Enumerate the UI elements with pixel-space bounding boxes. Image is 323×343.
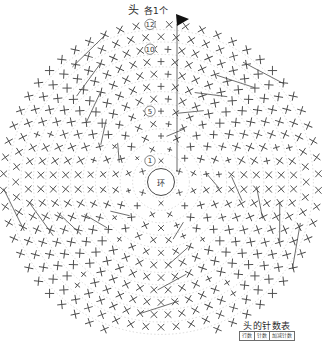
- single-crochet-symbol: [234, 86, 242, 94]
- single-crochet-symbol: [232, 213, 240, 221]
- single-crochet-symbol: [77, 200, 84, 207]
- single-crochet-symbol: [251, 157, 258, 164]
- single-crochet-symbol: [261, 238, 269, 246]
- single-crochet-symbol: [265, 81, 273, 89]
- single-crochet-symbol: [29, 144, 36, 151]
- single-crochet-symbol: [64, 157, 71, 164]
- single-crochet-symbol: [127, 320, 134, 327]
- single-crochet-symbol: [116, 121, 123, 128]
- single-crochet-symbol: [225, 130, 233, 138]
- single-crochet-symbol: [167, 212, 172, 217]
- single-crochet-symbol: [116, 92, 124, 100]
- single-crochet-symbol: [260, 94, 268, 102]
- single-crochet-symbol: [109, 81, 117, 89]
- single-crochet-symbol: [289, 158, 296, 165]
- single-crochet-symbol: [150, 237, 156, 243]
- single-crochet-symbol: [101, 325, 109, 333]
- single-crochet-symbol: [210, 226, 217, 233]
- increase-symbol: [166, 121, 172, 127]
- single-crochet-symbol: [254, 226, 262, 234]
- single-crochet-symbol: [260, 261, 268, 269]
- single-crochet-symbol: [58, 55, 66, 63]
- single-crochet-symbol: [25, 92, 33, 100]
- single-crochet-symbol: [71, 60, 79, 68]
- crochet-diagram: 环 151012: [0, 0, 323, 343]
- single-crochet-symbol: [172, 84, 179, 91]
- single-crochet-symbol: [34, 277, 42, 285]
- single-crochet-symbol: [104, 201, 111, 208]
- single-crochet-symbol: [112, 316, 120, 324]
- single-crochet-symbol: [188, 320, 195, 327]
- single-crochet-symbol: [295, 133, 303, 141]
- chain-connector: [178, 111, 204, 114]
- single-crochet-symbol: [240, 226, 248, 234]
- single-crochet-symbol: [193, 225, 200, 232]
- single-crochet-symbol: [192, 103, 200, 111]
- single-crochet-symbol: [151, 287, 157, 293]
- single-crochet-symbol: [53, 238, 61, 246]
- single-crochet-symbol: [216, 119, 224, 127]
- single-crochet-symbol: [19, 223, 27, 231]
- single-crochet-symbol: [185, 61, 192, 68]
- single-crochet-symbol: [251, 84, 259, 92]
- single-crochet-symbol: [136, 73, 143, 80]
- single-crochet-symbol: [211, 257, 219, 265]
- single-crochet-symbol: [199, 121, 206, 128]
- single-crochet-symbol: [198, 291, 206, 299]
- single-crochet-symbol: [217, 88, 225, 96]
- single-crochet-symbol: [123, 307, 130, 314]
- single-crochet-symbol: [50, 186, 56, 192]
- single-crochet-symbol: [204, 143, 211, 150]
- single-crochet-symbol: [150, 147, 155, 152]
- single-crochet-symbol: [210, 131, 217, 138]
- single-crochet-symbol: [67, 118, 75, 126]
- single-crochet-symbol: [142, 222, 149, 229]
- single-crochet-symbol: [290, 186, 296, 192]
- single-crochet-symbol: [62, 186, 68, 192]
- single-crochet-symbol: [63, 272, 71, 280]
- increase-symbol: [126, 188, 131, 193]
- single-crochet-symbol: [101, 31, 109, 39]
- single-crochet-symbol: [55, 143, 63, 151]
- single-crochet-symbol: [283, 105, 291, 113]
- single-crochet-symbol: [202, 40, 210, 48]
- single-crochet-symbol: [10, 122, 18, 130]
- single-crochet-symbol: [98, 237, 106, 245]
- single-crochet-symbol: [49, 81, 57, 89]
- single-crochet-symbol: [103, 99, 111, 107]
- single-crochet-symbol: [268, 289, 276, 297]
- single-crochet-symbol: [273, 213, 280, 220]
- increase-symbol: [273, 144, 280, 151]
- increase-symbol: [165, 46, 171, 52]
- single-crochet-symbol: [242, 60, 250, 68]
- single-crochet-symbol: [91, 278, 99, 286]
- single-crochet-symbol: [86, 97, 94, 105]
- single-crochet-symbol: [24, 237, 32, 245]
- single-crochet-symbol: [143, 84, 150, 91]
- single-crochet-symbol: [39, 238, 47, 246]
- increase-symbol: [165, 96, 172, 103]
- single-crochet-symbol: [109, 246, 117, 254]
- increase-symbol: [205, 275, 213, 283]
- round-marker-label: 10: [146, 46, 155, 54]
- single-crochet-symbol: [71, 295, 79, 303]
- single-crochet-symbol: [304, 235, 312, 243]
- single-crochet-symbol: [188, 36, 195, 43]
- chain-connector: [217, 75, 255, 87]
- table-header-row: 行数针数加减针数: [240, 332, 295, 341]
- chain-connector: [30, 203, 53, 235]
- increase-symbol: [229, 289, 237, 297]
- single-crochet-symbol: [140, 190, 146, 196]
- single-crochet-symbol: [74, 130, 82, 138]
- single-crochet-symbol: [187, 214, 194, 221]
- single-crochet-symbol: [128, 214, 135, 221]
- single-crochet-symbol: [85, 289, 93, 297]
- single-crochet-symbol: [289, 92, 297, 100]
- single-crochet-symbol: [110, 54, 118, 62]
- single-crochet-symbol: [265, 275, 273, 283]
- single-crochet-symbol: [122, 253, 130, 261]
- single-crochet-symbol: [52, 157, 59, 164]
- single-crochet-symbol: [143, 248, 149, 254]
- single-crochet-symbol: [212, 201, 219, 208]
- single-crochet-symbol: [244, 95, 252, 103]
